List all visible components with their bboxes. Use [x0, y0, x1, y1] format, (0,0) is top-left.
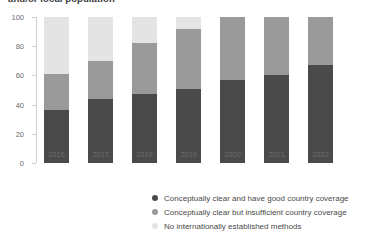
plot-area: 100806040200	[36, 17, 366, 163]
y-axis-tick-label: 40	[0, 101, 24, 110]
bar-segment	[132, 43, 157, 94]
y-axis-line	[36, 17, 37, 163]
legend-item-label: No internationally established methods	[164, 222, 301, 231]
x-axis-label: 2022	[301, 150, 341, 159]
bar	[44, 17, 69, 163]
bar	[132, 17, 157, 163]
bar	[264, 17, 289, 163]
y-axis-tick-label: 60	[0, 71, 24, 80]
bar-segment	[88, 61, 113, 99]
bar-segment	[44, 17, 69, 74]
legend-color-swatch-icon	[152, 223, 158, 229]
y-axis-tick-mark	[32, 163, 36, 164]
legend-item[interactable]: Conceptually clear and have good country…	[152, 191, 349, 205]
legend-color-swatch-icon	[152, 195, 158, 201]
y-axis-tick-label: 20	[0, 130, 24, 139]
bar	[220, 17, 245, 163]
x-axis-label: 2018	[125, 150, 165, 159]
legend-item-label: Conceptually clear and have good country…	[164, 194, 349, 203]
y-axis-tick-label: 80	[0, 42, 24, 51]
bar-segment	[308, 65, 333, 163]
y-axis-tick-mark	[32, 46, 36, 47]
chart-title: and/or local population	[8, 0, 115, 4]
legend-color-swatch-icon	[152, 209, 158, 215]
y-axis-tick-label: 0	[0, 159, 24, 168]
bar	[308, 17, 333, 163]
x-axis-label: 2016	[37, 150, 77, 159]
bar	[88, 17, 113, 163]
x-axis-label: 2017	[81, 150, 121, 159]
stacked-bar-chart: and/or local population 100806040200 201…	[0, 0, 374, 238]
bar	[176, 17, 201, 163]
bar-segment	[176, 17, 201, 29]
bar-segment	[88, 17, 113, 61]
x-axis-label: 2019	[169, 150, 209, 159]
bar-segment	[132, 17, 157, 43]
bar-segment	[220, 17, 245, 80]
y-axis-tick-mark	[32, 134, 36, 135]
x-axis-label: 2021	[257, 150, 297, 159]
bar-segment	[308, 17, 333, 65]
y-axis-tick-label: 100	[0, 13, 24, 22]
y-axis-tick-mark	[32, 17, 36, 18]
bar-segment	[264, 17, 289, 75]
y-axis-tick-mark	[32, 75, 36, 76]
x-axis-label: 2020	[213, 150, 253, 159]
y-axis-tick-mark	[32, 105, 36, 106]
bar-segment	[176, 29, 201, 89]
legend-item[interactable]: Conceptually clear but insufficient coun…	[152, 205, 349, 219]
legend-item-label: Conceptually clear but insufficient coun…	[164, 208, 347, 217]
bar-segment	[44, 74, 69, 111]
chart-legend: Conceptually clear and have good country…	[152, 191, 349, 233]
legend-item[interactable]: No internationally established methods	[152, 219, 349, 233]
